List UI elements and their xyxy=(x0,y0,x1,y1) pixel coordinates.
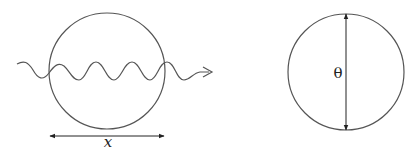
theta-label: θ xyxy=(333,64,342,82)
diagram-canvas: x θ xyxy=(0,0,415,151)
wave-path xyxy=(17,62,209,80)
left-panel: x xyxy=(17,13,212,151)
left-circle xyxy=(49,13,165,129)
right-panel: θ xyxy=(288,14,404,130)
x-label: x xyxy=(104,133,113,151)
